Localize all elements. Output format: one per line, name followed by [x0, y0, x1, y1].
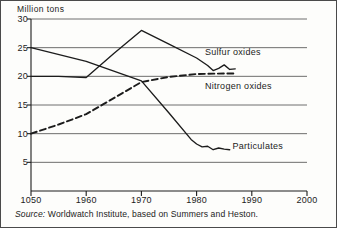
series-label-sulfur-oxides: Sulfur oxides — [205, 47, 261, 57]
source-prefix: Source: — [15, 209, 45, 219]
y-tick-label: 15 — [4, 100, 28, 110]
x-tick-label: 1980 — [186, 195, 207, 205]
x-tick-label: 1050 — [21, 195, 42, 205]
y-axis-unit-label: Million tons — [17, 4, 64, 14]
y-tick-label: 20 — [4, 71, 28, 81]
source-caption: Source: Worldwatch Institute, based on S… — [15, 209, 258, 219]
x-tick-label: 2000 — [297, 195, 318, 205]
x-tick-label: 1960 — [76, 195, 97, 205]
y-tick-label: 30 — [4, 14, 28, 24]
series-label-particulates: Particulates — [232, 141, 283, 151]
x-tick-label: 1990 — [241, 195, 262, 205]
source-text: Worldwatch Institute, based on Summers a… — [48, 209, 258, 219]
series-line-particulates — [31, 48, 230, 150]
chart-figure: Million tons 51015202530 105019601970198… — [0, 0, 337, 228]
x-axis-tick-labels: 105019601970198019902000 — [31, 195, 307, 207]
series-label-nitrogen-oxides: Nitrogen oxides — [205, 81, 272, 91]
y-tick-label: 5 — [4, 157, 28, 167]
y-axis-tick-labels: 51015202530 — [1, 19, 28, 191]
chart-canvas — [31, 19, 307, 191]
y-tick-label: 10 — [4, 129, 28, 139]
plot-area — [31, 19, 307, 191]
y-tick-label: 25 — [4, 43, 28, 53]
x-tick-label: 1970 — [131, 195, 152, 205]
axis-lines — [27, 19, 307, 196]
